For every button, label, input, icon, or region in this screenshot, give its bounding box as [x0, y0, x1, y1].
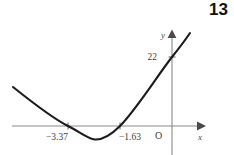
tick-label-root-right: −1.63: [119, 132, 141, 142]
origin-label: O: [155, 130, 162, 141]
y-axis-label: y: [160, 30, 165, 40]
tick-label-y-intercept: 22: [148, 52, 158, 62]
figure-container: 13 y x O −3.37 −1.63 22: [0, 0, 234, 155]
parabola-plot: y x O −3.37 −1.63 22: [0, 0, 234, 155]
parabola-curve: [13, 33, 190, 140]
x-axis-label: x: [197, 132, 202, 142]
y-axis-arrow-icon: [168, 30, 177, 39]
tick-label-root-left: −3.37: [46, 132, 68, 142]
x-axis-arrow-icon: [197, 122, 206, 131]
